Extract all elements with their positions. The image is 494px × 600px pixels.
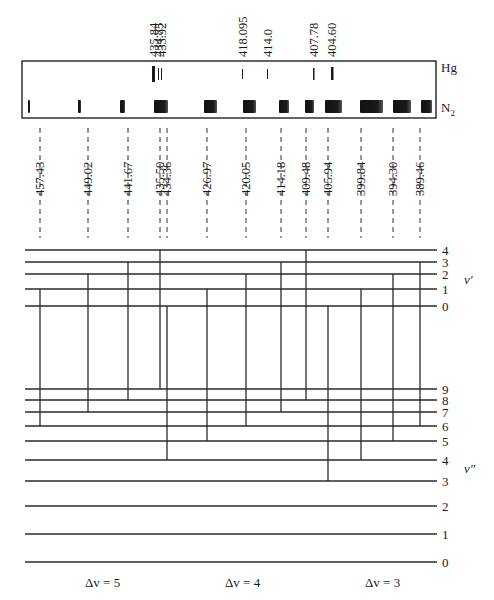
n2-band-head: [243, 100, 256, 113]
hg-emission-line: [313, 68, 315, 80]
n2-band-head: [325, 100, 342, 113]
hg-emission-line: [331, 67, 334, 80]
n2-label: N2: [441, 100, 455, 118]
band-wavelength-label: 441.67: [121, 162, 135, 196]
delta-v-label: Δv = 5: [85, 575, 120, 590]
delta-v-label: Δv = 4: [225, 575, 261, 590]
n2-band-head: [393, 100, 411, 113]
hg-line-label: 407.78: [307, 23, 321, 57]
lower-level-number: 7: [442, 405, 449, 420]
axis-labels: v′v″: [464, 272, 476, 476]
lower-level-number: 6: [442, 419, 449, 434]
lower-state-label: v″: [464, 461, 476, 476]
n2-label-subscript: 2: [450, 108, 455, 118]
sequence-labels: Δv = 5Δv = 4Δv = 3: [85, 575, 400, 590]
hg-line-label: 414.0: [261, 29, 275, 57]
hg-line-label: 404.60: [325, 23, 339, 57]
delta-v-label: Δv = 3: [365, 575, 400, 590]
hg-label: Hg: [441, 60, 457, 75]
energy-level-diagram: 435.84434.75433.92418.095414.0407.78404.…: [0, 0, 494, 600]
band-wavelength-label: 389.46: [413, 162, 427, 196]
upper-level-number: 0: [442, 299, 449, 314]
band-wavelength-label: 449.02: [81, 162, 95, 196]
spectrum-plate: HgN2: [22, 60, 457, 118]
n2-band-head: [204, 100, 217, 113]
transition-lines: [40, 250, 420, 481]
lower-level-number: 2: [442, 499, 449, 514]
n2-band-head: [28, 100, 30, 113]
band-wavelength-label: 457.43: [33, 162, 47, 196]
band-wavelength-label: 399.84: [354, 161, 368, 196]
band-wavelength-label: 409.48: [299, 162, 313, 196]
upper-state-label: v′: [464, 272, 473, 287]
n2-band-head: [120, 100, 125, 113]
hg-emission-line: [152, 66, 155, 82]
hg-emission-line: [161, 68, 162, 80]
band-wavelength-label: 394.30: [386, 162, 400, 196]
n2-band-head: [78, 100, 81, 113]
lower-level-number: 0: [442, 555, 449, 570]
hg-wavelength-labels: 435.84434.75433.92418.095414.0407.78404.…: [147, 16, 340, 57]
n2-band-head: [421, 100, 432, 113]
hg-emission-line: [158, 68, 159, 80]
n2-band-head: [360, 100, 383, 113]
n2-band-head: [279, 100, 289, 113]
n2-band-head: [154, 100, 168, 113]
band-wavelength-label: 434.36: [160, 162, 174, 196]
hg-emission-line: [267, 69, 268, 79]
band-wavelength-labels: 457.43449.02441.67435.50434.36426.97420.…: [33, 128, 427, 238]
band-wavelength-label: 426.97: [200, 162, 214, 196]
hg-emission-line: [242, 69, 243, 79]
n2-band-head: [305, 100, 314, 113]
band-wavelength-label: 420.05: [239, 162, 253, 196]
upper-level-number: 1: [442, 282, 449, 297]
hg-line-label: 433.92: [155, 23, 169, 57]
lower-level-number: 4: [442, 453, 449, 468]
hg-line-label: 418.095: [236, 16, 250, 57]
lower-level-number: 1: [442, 527, 449, 542]
band-wavelength-label: 405.94: [321, 161, 335, 196]
lower-level-number: 5: [442, 434, 449, 449]
lower-level-number: 3: [442, 474, 449, 489]
band-wavelength-label: 414.18: [274, 162, 288, 196]
upper-level-number: 2: [442, 267, 449, 282]
